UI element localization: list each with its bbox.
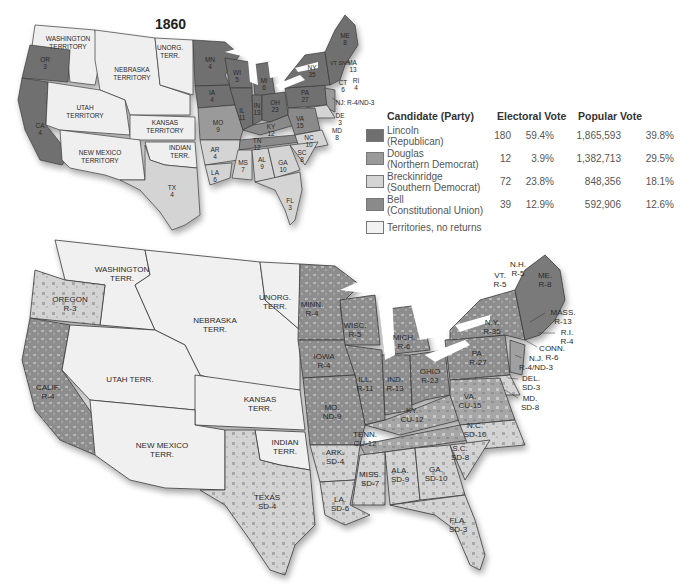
svg-text:R-3: R-3 bbox=[64, 304, 77, 313]
svg-text:9: 9 bbox=[260, 163, 264, 170]
label-maryland: MD. bbox=[523, 394, 538, 403]
label-missouri: MO. bbox=[324, 403, 339, 412]
svg-text:4: 4 bbox=[210, 96, 214, 103]
svg-text:TERR.: TERR. bbox=[150, 450, 174, 459]
label-alabama: ALA. bbox=[391, 466, 408, 475]
svg-text:23: 23 bbox=[271, 106, 279, 113]
swatch-constitutional-union bbox=[366, 198, 384, 211]
svg-text:10: 10 bbox=[279, 166, 287, 173]
top-map-1860: WASHINGTON TERRITORY NEBRASKA TERRITORY … bbox=[0, 0, 683, 588]
svg-text:TERR.: TERR. bbox=[273, 447, 297, 456]
label-il: IL bbox=[239, 107, 245, 114]
electoral-votes: 12 bbox=[491, 153, 511, 164]
svg-text:6: 6 bbox=[213, 176, 217, 183]
electoral-pct: 23.8% bbox=[516, 176, 554, 187]
svg-text:TERRITORY: TERRITORY bbox=[146, 127, 184, 134]
swatch-southern-democrat bbox=[366, 175, 384, 188]
svg-text:R-13: R-13 bbox=[386, 384, 404, 393]
candidate-party: (Constitutional Union) bbox=[387, 205, 483, 216]
swatch-northern-democrat bbox=[366, 152, 384, 165]
popular-pct: 39.8% bbox=[634, 130, 674, 141]
candidate-party: (Southern Democrat) bbox=[387, 182, 480, 193]
svg-text:R-27: R-27 bbox=[469, 358, 487, 367]
label-texas: TEXAS bbox=[254, 493, 280, 502]
label-ar: AR bbox=[210, 146, 219, 153]
label-louisiana: LA. bbox=[334, 495, 346, 504]
label-pa: PA bbox=[301, 89, 310, 96]
region-florida bbox=[390, 495, 485, 570]
svg-text:SD-4: SD-4 bbox=[258, 502, 277, 511]
svg-text:R-5: R-5 bbox=[349, 330, 362, 339]
svg-text:TERR.: TERR. bbox=[170, 152, 190, 159]
svg-text:TERR.: TERR. bbox=[160, 52, 180, 59]
label-oh: OH bbox=[270, 99, 280, 106]
label-utah-terr: UTAH TERR. bbox=[106, 375, 153, 384]
svg-text:8: 8 bbox=[335, 134, 339, 141]
label-rhode-island: R.I. bbox=[561, 328, 573, 337]
svg-text:7: 7 bbox=[241, 166, 245, 173]
svg-text:SD-3: SD-3 bbox=[522, 383, 541, 392]
label-sc: SC bbox=[297, 149, 306, 156]
svg-text:12: 12 bbox=[267, 130, 275, 137]
label-iowa: IOWA bbox=[313, 352, 335, 361]
popular-votes: 1,865,593 bbox=[566, 130, 621, 141]
electoral-pct: 59.4% bbox=[516, 130, 554, 141]
label-south-carolina: S.C. bbox=[452, 444, 468, 453]
label-ca: CA bbox=[35, 122, 45, 129]
candidate-party: (Northern Democrat) bbox=[387, 159, 479, 170]
svg-text:R-4: R-4 bbox=[318, 361, 331, 370]
label-de: DE bbox=[335, 112, 345, 119]
label-ma: MA bbox=[347, 59, 357, 66]
svg-text:SD-10: SD-10 bbox=[425, 474, 448, 483]
svg-text:SD-8: SD-8 bbox=[521, 403, 540, 412]
label-vermont: VT. bbox=[494, 271, 506, 280]
svg-text:27: 27 bbox=[301, 96, 309, 103]
label-indian-terr: INDIAN bbox=[271, 438, 298, 447]
svg-text:4: 4 bbox=[170, 191, 174, 198]
legend-row-territories: Territories, no returns bbox=[366, 218, 683, 244]
svg-text:12: 12 bbox=[253, 144, 261, 151]
label-tx: TX bbox=[168, 184, 177, 191]
svg-text:R-6: R-6 bbox=[546, 353, 559, 362]
label-georgia: GA. bbox=[429, 465, 443, 474]
svg-text:5: 5 bbox=[235, 76, 239, 83]
bottom-map-regions bbox=[22, 240, 565, 575]
popular-votes: 1,382,713 bbox=[566, 153, 621, 164]
label-kansas-terr: KANSAS bbox=[244, 395, 276, 404]
label-new-jersey: N.J. bbox=[529, 354, 543, 363]
svg-text:4: 4 bbox=[38, 129, 42, 136]
label-ohio: OHIO bbox=[420, 367, 440, 376]
label-california: CALIF. bbox=[36, 383, 60, 392]
label-wisconsin: WISC. bbox=[343, 321, 366, 330]
electoral-votes: 180 bbox=[491, 130, 511, 141]
candidate-name: Lincoln bbox=[387, 125, 419, 136]
svg-text:4: 4 bbox=[213, 153, 217, 160]
popular-pct: 18.1% bbox=[634, 176, 674, 187]
label-virginia: VA. bbox=[464, 392, 476, 401]
label-unorganized-territory: UNORG. bbox=[157, 44, 183, 51]
label-ny: NY bbox=[307, 64, 317, 71]
label-oregon: OREGON bbox=[52, 295, 88, 304]
svg-text:TERR.: TERR. bbox=[263, 302, 287, 311]
label-indiana: IND. bbox=[387, 375, 403, 384]
label-me: ME bbox=[340, 32, 350, 39]
svg-text:SD-10: SD-10 bbox=[464, 430, 487, 439]
electoral-pct: 3.9% bbox=[516, 153, 554, 164]
svg-text:R-23: R-23 bbox=[421, 376, 439, 385]
svg-text:R-5: R-5 bbox=[494, 280, 507, 289]
svg-text:TERR.: TERR. bbox=[203, 325, 227, 334]
electoral-votes: 72 bbox=[491, 176, 511, 187]
svg-text:R-4/ND-3: R-4/ND-3 bbox=[519, 363, 553, 372]
label-new-mexico-terr: NEW MEXICO bbox=[136, 441, 188, 450]
svg-text:TERRITORY: TERRITORY bbox=[81, 157, 119, 164]
svg-text:35: 35 bbox=[308, 71, 316, 78]
svg-text:SD-3: SD-3 bbox=[449, 525, 468, 534]
candidate-name: Breckinridge bbox=[387, 171, 443, 182]
label-delaware: DEL. bbox=[522, 374, 540, 383]
svg-text:R-13: R-13 bbox=[554, 317, 572, 326]
label-illinois: ILL. bbox=[358, 375, 371, 384]
header-popular-vote: Popular Vote bbox=[578, 110, 642, 122]
label-arkansas: ARK. bbox=[326, 448, 345, 457]
electoral-votes: 39 bbox=[491, 199, 511, 210]
svg-text:10: 10 bbox=[305, 141, 313, 148]
